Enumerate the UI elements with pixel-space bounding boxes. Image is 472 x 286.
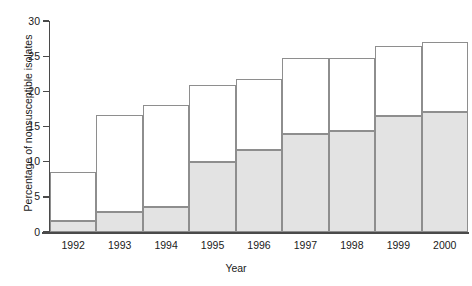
- y-axis-tick: [43, 161, 49, 162]
- bar-1993: [96, 115, 142, 232]
- bar-segment-upper: [422, 42, 468, 112]
- bar-segment-upper: [329, 58, 375, 131]
- y-axis-tick: [43, 56, 49, 57]
- bar-segment-lower: [96, 212, 142, 232]
- x-axis-tick-label: 1996: [236, 240, 282, 251]
- x-axis-line: [42, 232, 469, 234]
- y-axis-tick-label: 0: [0, 227, 40, 237]
- bar-chart: Percentage of nonsusceptible isolates 05…: [0, 0, 472, 286]
- y-axis-tick: [43, 91, 49, 92]
- bar-1998: [329, 58, 375, 232]
- y-axis-tick: [43, 231, 49, 232]
- bar-segment-lower: [282, 134, 328, 232]
- x-axis-tick-label: 1998: [329, 240, 375, 251]
- bar-segment-upper: [50, 172, 96, 221]
- bar-segment-lower: [143, 207, 189, 232]
- y-axis-tick-label: 20: [0, 86, 40, 96]
- x-axis-tick-label: 1995: [189, 240, 235, 251]
- x-axis-tick-label: 1999: [375, 240, 421, 251]
- bar-segment-upper: [375, 46, 421, 116]
- bar-segment-lower: [375, 116, 421, 232]
- bar-segment-lower: [329, 131, 375, 232]
- bar-segment-upper: [189, 85, 235, 162]
- y-axis-tick: [43, 196, 49, 197]
- y-axis-tick-label: 15: [0, 121, 40, 131]
- plot-area: [50, 21, 468, 232]
- bar-1992: [50, 172, 96, 232]
- x-axis-tick-label: 1993: [96, 240, 142, 251]
- bar-1997: [282, 58, 328, 232]
- y-axis-tick-label: 30: [0, 16, 40, 26]
- x-axis-tick-label: 1997: [282, 240, 328, 251]
- y-axis-tick-label: 10: [0, 156, 40, 166]
- bar-segment-upper: [282, 58, 328, 134]
- bar-segment-lower: [189, 162, 235, 232]
- bar-1994: [143, 105, 189, 232]
- x-axis-title: Year: [0, 262, 472, 274]
- bar-2000: [422, 42, 468, 232]
- x-axis-tick-label: 1994: [143, 240, 189, 251]
- y-axis-tick-label: 25: [0, 51, 40, 61]
- bar-segment-upper: [96, 115, 142, 211]
- y-axis-tick: [43, 126, 49, 127]
- bar-segment-upper: [143, 105, 189, 208]
- bar-1996: [236, 79, 282, 232]
- bar-1995: [189, 85, 235, 232]
- x-axis-tick-label: 1992: [50, 240, 96, 251]
- x-axis-tick-label: 2000: [422, 240, 468, 251]
- bar-segment-lower: [422, 112, 468, 232]
- bar-1999: [375, 46, 421, 232]
- y-axis-tick: [43, 20, 49, 21]
- y-axis-tick-label: 5: [0, 191, 40, 201]
- bar-segment-lower: [236, 150, 282, 232]
- bar-segment-lower: [50, 221, 96, 232]
- bar-segment-upper: [236, 79, 282, 151]
